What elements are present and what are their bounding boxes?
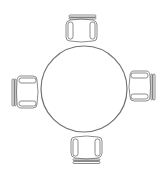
chair-arm-right	[95, 139, 100, 156]
chair-arm-left	[73, 139, 78, 156]
chair-top	[66, 15, 97, 42]
chair-back	[153, 74, 155, 100]
chair-back-inner	[151, 74, 153, 100]
chair-seat	[66, 19, 97, 42]
chair-seat	[71, 136, 102, 159]
chair-back	[73, 162, 100, 164]
chair-arm-bottom	[131, 94, 148, 99]
chair-seat	[17, 76, 39, 108]
chair-arm-top	[19, 78, 36, 83]
chair-bottom	[71, 136, 102, 164]
chair-arm-left	[68, 22, 73, 39]
chair-arm-bottom	[19, 101, 36, 106]
chair-back-inner	[73, 159, 100, 161]
chair-right	[129, 71, 155, 101]
round-table	[41, 46, 127, 132]
chair-back	[69, 15, 96, 17]
chair-left	[12, 76, 38, 108]
chair-back-inner	[15, 79, 17, 106]
chair-seat	[129, 71, 151, 101]
chair-arm-right	[90, 22, 95, 39]
table-set-drawing	[0, 0, 167, 183]
chair-arm-top	[131, 73, 148, 78]
floor-plan-canvas	[0, 0, 167, 183]
chair-back	[12, 79, 14, 106]
